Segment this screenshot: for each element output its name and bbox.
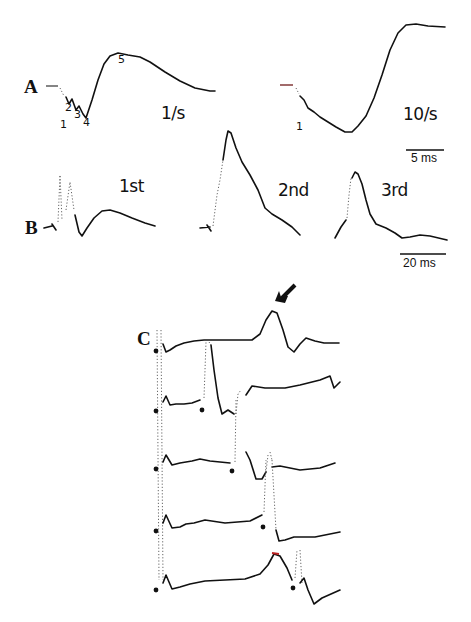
trace-c-3 — [154, 400, 335, 479]
trace-c-4 — [154, 460, 340, 541]
condition-label-3rd: 3rd — [381, 180, 408, 200]
condition-label-1s: 1/s — [161, 103, 185, 123]
arrow-shaft — [281, 285, 295, 299]
peak-label-5: 5 — [118, 53, 125, 66]
trace-c-5 — [154, 550, 340, 604]
figure: A B C 1/s 10/s 1 2 3 4 5 1 5 ms 1st 2nd … — [0, 0, 471, 622]
peak-label-4: 4 — [83, 116, 90, 129]
trace-c-1 — [154, 311, 339, 353]
scale-label-5ms: 5 ms — [411, 151, 437, 165]
stim-dotted-line — [157, 330, 163, 580]
peak-label-2: 2 — [65, 101, 72, 114]
panel-label-b: B — [25, 217, 38, 239]
scale-label-20ms: 20 ms — [403, 256, 436, 270]
panel-label-c: C — [137, 328, 151, 350]
peak-label-1: 1 — [60, 118, 67, 131]
traces-svg — [0, 0, 471, 622]
peak-label-3: 3 — [74, 108, 81, 121]
panel-label-a: A — [24, 76, 38, 98]
condition-label-2nd: 2nd — [278, 180, 309, 200]
trace-c-2 — [154, 342, 340, 414]
peak-label-10s-1: 1 — [296, 120, 303, 133]
condition-label-1st: 1st — [119, 176, 144, 196]
condition-label-10s: 10/s — [403, 104, 437, 124]
